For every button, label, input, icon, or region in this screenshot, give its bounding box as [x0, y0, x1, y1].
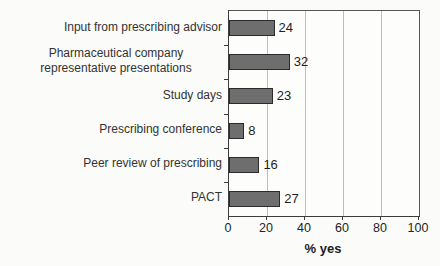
y-axis-tick: [224, 182, 228, 183]
bar-value-label: 23: [277, 88, 291, 104]
bar-value-label: 27: [284, 191, 298, 207]
x-axis-tick-label-60: 60: [335, 221, 349, 235]
x-axis-tick-label-0: 0: [225, 221, 232, 235]
x-axis-tick: [380, 216, 381, 220]
bar-chart: Input from prescribing advisorPharmaceut…: [0, 0, 440, 266]
gridline-x-60: [343, 11, 344, 216]
category-axis-labels: Input from prescribing advisorPharmaceut…: [0, 10, 222, 215]
category-label: Peer review of prescribing: [83, 156, 222, 171]
bar-value-label: 32: [294, 54, 308, 70]
bar-value-label: 16: [263, 157, 277, 173]
x-axis-title: % yes: [228, 241, 418, 256]
x-axis-tick: [228, 216, 229, 220]
x-axis-tick-labels: 020406080100: [228, 221, 418, 235]
gridline-x-40: [305, 11, 306, 216]
x-axis-tick-label-80: 80: [373, 221, 387, 235]
bar-6: [229, 191, 280, 207]
category-label: Study days: [163, 88, 222, 103]
bar-value-label: 8: [248, 123, 255, 139]
category-label: Input from prescribing advisor: [64, 20, 222, 35]
bar-value-label: 24: [279, 20, 293, 36]
bar-4: [229, 123, 244, 139]
bar-1: [229, 20, 275, 36]
category-row-5: Peer review of prescribing: [0, 147, 222, 181]
x-axis-tick: [342, 216, 343, 220]
x-axis-tick-label-100: 100: [408, 221, 429, 235]
x-axis-tick-label-40: 40: [297, 221, 311, 235]
category-label: Prescribing conference: [99, 122, 222, 137]
category-row-6: PACT: [0, 181, 222, 215]
category-row-3: Study days: [0, 78, 222, 112]
y-axis-tick: [224, 148, 228, 149]
category-row-1: Input from prescribing advisor: [0, 10, 222, 44]
x-axis-tick-label-20: 20: [259, 221, 273, 235]
x-axis-tick: [304, 216, 305, 220]
plot-area: 24322381627: [228, 10, 420, 217]
bar-2: [229, 54, 290, 70]
y-axis-tick: [224, 79, 228, 80]
bar-3: [229, 88, 273, 104]
category-label: PACT: [191, 190, 222, 205]
y-axis-tick: [224, 45, 228, 46]
y-axis-tick: [224, 114, 228, 115]
x-axis-tick: [418, 216, 419, 220]
category-row-4: Prescribing conference: [0, 113, 222, 147]
category-row-2: Pharmaceutical company representative pr…: [0, 44, 222, 78]
category-label: Pharmaceutical company representative pr…: [10, 46, 222, 76]
x-axis-tick: [266, 216, 267, 220]
gridline-x-20: [267, 11, 268, 216]
bar-5: [229, 157, 259, 173]
gridline-x-80: [381, 11, 382, 216]
